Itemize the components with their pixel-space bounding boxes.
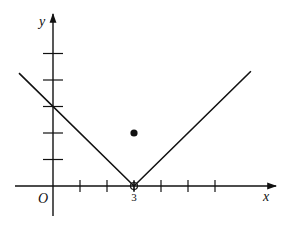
filled-point bbox=[130, 129, 137, 136]
x-tick-label: 3 bbox=[131, 191, 137, 203]
origin-label: O bbox=[38, 191, 48, 206]
points bbox=[130, 129, 137, 191]
y-axis-label: y bbox=[37, 14, 46, 29]
graph-line-graph bbox=[19, 71, 251, 186]
axes bbox=[15, 14, 276, 216]
tick-labels: 3 bbox=[131, 191, 137, 203]
x-axis-label: x bbox=[262, 189, 270, 204]
series bbox=[19, 71, 251, 186]
graph-figure: y x O 3 bbox=[0, 0, 286, 227]
